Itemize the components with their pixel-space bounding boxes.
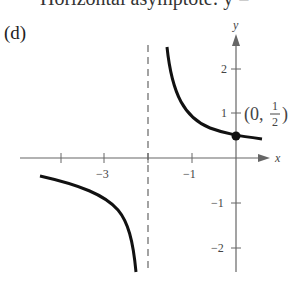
x-axis-arrow-icon	[258, 154, 270, 162]
point-label-denominator: 2	[272, 115, 278, 129]
y-tick-label: −1	[211, 196, 224, 210]
graph: x y −3 −1 2 1 −1 −2 (0, 1 2 )	[0, 0, 293, 284]
curve-right-branch	[167, 47, 262, 139]
x-tick-label: −1	[183, 167, 196, 181]
intercept-point	[232, 132, 241, 141]
y-axis-arrow-icon	[232, 34, 240, 46]
point-label-open: (0,	[244, 104, 264, 125]
y-axis-label: y	[232, 18, 239, 32]
point-label-numerator: 1	[272, 99, 278, 113]
x-axis-label: x	[274, 151, 281, 165]
y-tick-label: 1	[221, 106, 227, 120]
x-tick-label: −3	[96, 167, 109, 181]
curve-left-branch	[40, 176, 136, 272]
y-tick-label: 2	[221, 62, 227, 76]
y-tick-label: −2	[211, 241, 224, 255]
point-label-close: )	[282, 104, 288, 125]
